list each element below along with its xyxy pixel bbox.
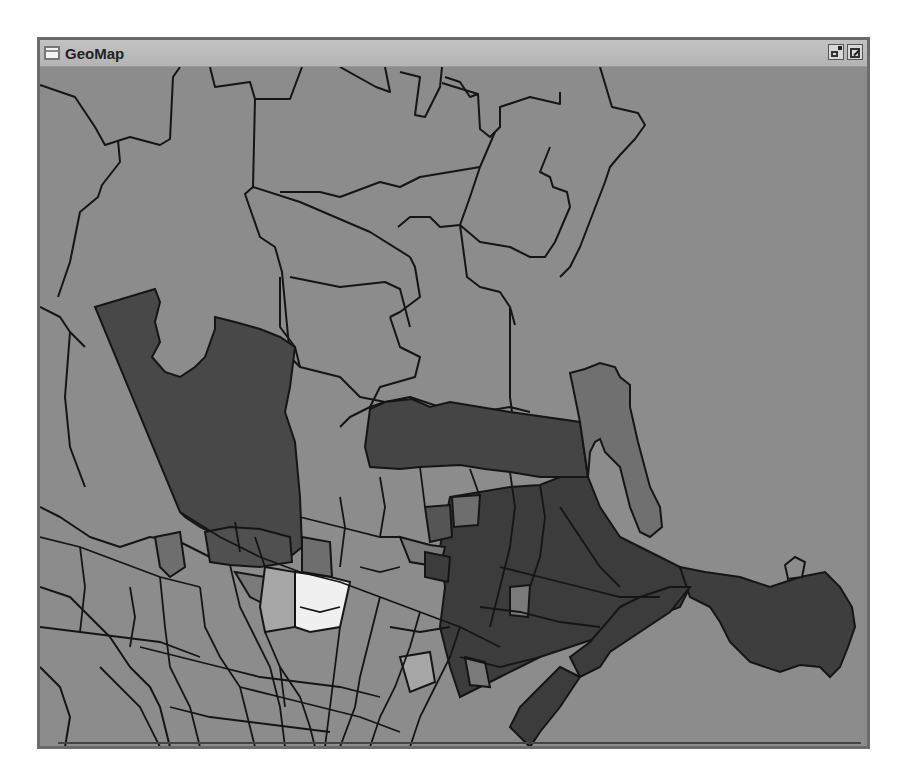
window-title: GeoMap	[65, 45, 124, 62]
detach-window-icon[interactable]	[847, 44, 863, 60]
restore-window-icon[interactable]	[828, 44, 844, 60]
geomap-window: GeoMap	[37, 37, 870, 749]
map-bottom-border	[58, 742, 861, 744]
window-controls	[828, 44, 863, 60]
choropleth-map[interactable]	[40, 67, 867, 746]
window-icon	[44, 46, 60, 60]
title-bar[interactable]: GeoMap	[40, 40, 867, 67]
map-canvas[interactable]	[40, 67, 867, 746]
